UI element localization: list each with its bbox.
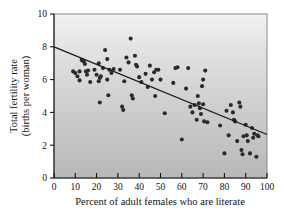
data-point: [75, 74, 79, 78]
data-point: [153, 94, 157, 98]
data-point: [227, 133, 231, 137]
data-point: [240, 152, 244, 156]
data-point: [197, 101, 201, 105]
data-point: [105, 78, 109, 82]
y-axis-tick-labels: 0246810: [38, 9, 48, 183]
data-point: [245, 133, 249, 137]
x-tick-label: 80: [220, 182, 230, 192]
data-point: [256, 134, 260, 138]
data-point: [78, 69, 82, 73]
x-tick-label: 30: [113, 182, 123, 192]
data-point: [156, 68, 160, 72]
data-point: [239, 148, 243, 152]
fertility-literacy-scatter-figure: 0246810 0102030405060708090100 Percent o…: [0, 0, 284, 219]
data-point: [122, 79, 126, 83]
data-point: [85, 73, 89, 77]
data-point: [158, 78, 162, 82]
data-point: [196, 94, 200, 98]
data-point: [203, 69, 207, 73]
data-point: [248, 151, 252, 155]
y-axis-ticks: [50, 14, 54, 178]
data-point: [163, 111, 167, 115]
data-point: [86, 69, 90, 73]
data-point: [188, 105, 192, 109]
data-point: [129, 37, 133, 41]
data-point: [201, 78, 205, 82]
data-point: [222, 151, 226, 155]
data-point: [224, 109, 228, 113]
x-tick-label: 70: [198, 182, 208, 192]
x-tick-label: 60: [177, 182, 187, 192]
x-tick-label: 100: [260, 182, 275, 192]
data-point: [246, 139, 250, 143]
y-tick-label: 2: [42, 141, 47, 151]
data-point: [180, 137, 184, 141]
data-point: [105, 57, 109, 61]
data-point: [200, 84, 204, 88]
data-point: [135, 64, 139, 68]
y-tick-label: 4: [42, 108, 47, 118]
data-point: [83, 62, 87, 66]
data-point: [205, 120, 209, 124]
data-point: [150, 78, 154, 82]
data-point: [118, 68, 122, 72]
data-point: [106, 93, 110, 97]
data-point: [98, 101, 102, 105]
data-point: [229, 103, 233, 107]
data-point: [92, 68, 96, 72]
x-tick-label: 90: [241, 182, 251, 192]
y-tick-label: 8: [42, 42, 47, 52]
data-point: [235, 139, 239, 143]
data-point: [184, 87, 188, 91]
data-point: [144, 72, 148, 76]
data-point: [137, 75, 141, 79]
data-point: [254, 155, 258, 159]
y-tick-label: 0: [42, 173, 47, 183]
y-axis: 0246810: [38, 9, 55, 183]
data-point: [127, 60, 131, 64]
data-point: [88, 80, 92, 84]
y-axis-title-line-2: (births per woman): [20, 55, 32, 136]
x-tick-label: 50: [156, 182, 166, 192]
x-axis-tick-labels: 0102030405060708090100: [52, 182, 275, 192]
x-tick-label: 40: [134, 182, 144, 192]
data-point: [190, 110, 194, 114]
plot-background: [54, 14, 267, 178]
chart-canvas: 0246810 0102030405060708090100 Percent o…: [0, 0, 284, 219]
x-axis-title: Percent of adult females who are literat…: [75, 196, 245, 207]
data-point: [251, 136, 255, 140]
data-point: [99, 74, 103, 78]
y-tick-label: 6: [42, 75, 47, 85]
data-point: [175, 65, 179, 69]
y-axis-title-line-1: Total fertility rate: [8, 59, 19, 133]
data-point: [78, 78, 82, 82]
data-point: [238, 105, 242, 109]
data-point: [131, 96, 135, 100]
data-point: [171, 81, 175, 85]
data-point: [237, 101, 241, 105]
data-point: [231, 110, 235, 114]
data-point: [199, 112, 203, 116]
data-point: [124, 55, 128, 59]
data-point: [103, 48, 107, 52]
y-tick-label: 10: [38, 9, 48, 19]
data-point: [195, 118, 199, 122]
data-point: [201, 102, 205, 106]
x-tick-label: 0: [52, 182, 57, 192]
data-point: [95, 73, 99, 77]
data-point: [148, 64, 152, 68]
data-point: [133, 54, 137, 58]
data-point: [218, 123, 222, 127]
data-point: [186, 66, 190, 70]
x-tick-label: 10: [71, 182, 81, 192]
data-point: [121, 108, 125, 112]
x-tick-label: 20: [92, 182, 102, 192]
